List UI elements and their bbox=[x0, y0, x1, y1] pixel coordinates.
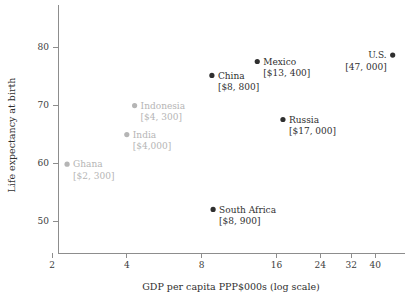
scatter-chart: 5060708024816243240 Ghana[$2, 300]India[… bbox=[0, 0, 410, 307]
point-marker[interactable] bbox=[280, 117, 285, 122]
plot-area: 5060708024816243240 Ghana[$2, 300]India[… bbox=[0, 0, 410, 307]
point-label: China bbox=[218, 71, 245, 81]
data-point-india[interactable]: India[$4,000] bbox=[124, 130, 171, 151]
point-marker[interactable] bbox=[64, 162, 69, 167]
x-tick-label: 2 bbox=[49, 260, 55, 270]
point-value-label: [$2, 300] bbox=[73, 171, 114, 181]
y-tick-label: 50 bbox=[38, 216, 50, 226]
y-tick-label: 70 bbox=[38, 100, 50, 110]
point-value-label: [47, 000] bbox=[345, 62, 386, 72]
data-point-south-africa[interactable]: South Africa[$8, 900] bbox=[211, 205, 277, 226]
x-tick-label: 4 bbox=[124, 260, 130, 270]
point-label: India bbox=[133, 130, 157, 140]
y-axis-title: Life expectancy at birth bbox=[6, 78, 17, 193]
point-marker[interactable] bbox=[124, 132, 129, 137]
point-value-label: [$8, 900] bbox=[219, 216, 260, 226]
point-value-label: [$13, 400] bbox=[263, 68, 310, 78]
point-marker[interactable] bbox=[390, 53, 395, 58]
x-tick-label: 24 bbox=[314, 260, 326, 270]
x-tick-label: 8 bbox=[199, 260, 205, 270]
data-point-china[interactable]: China[$8, 800] bbox=[209, 71, 259, 92]
point-label: U.S. bbox=[368, 50, 386, 60]
x-tick-label: 40 bbox=[370, 260, 382, 270]
x-tick-label: 32 bbox=[345, 260, 356, 270]
data-point-russia[interactable]: Russia[$17, 000] bbox=[280, 115, 336, 136]
point-value-label: [$17, 000] bbox=[289, 126, 336, 136]
data-points: Ghana[$2, 300]India[$4,000]Indonesia[$4,… bbox=[64, 50, 395, 226]
axis-ticks: 5060708024816243240 bbox=[38, 42, 382, 270]
point-label: Mexico bbox=[263, 57, 296, 67]
y-tick-label: 60 bbox=[38, 158, 50, 168]
point-marker[interactable] bbox=[255, 59, 260, 64]
x-axis-title: GDP per capita PPP$000s (log scale) bbox=[142, 281, 320, 292]
point-label: Russia bbox=[289, 115, 320, 125]
data-point-u-s[interactable]: U.S.[47, 000] bbox=[345, 50, 395, 71]
point-marker[interactable] bbox=[211, 207, 216, 212]
data-point-ghana[interactable]: Ghana[$2, 300] bbox=[64, 159, 114, 180]
point-marker[interactable] bbox=[209, 73, 214, 78]
point-marker[interactable] bbox=[132, 103, 137, 108]
point-value-label: [$4, 300] bbox=[141, 112, 182, 122]
point-value-label: [$4,000] bbox=[133, 141, 172, 151]
point-value-label: [$8, 800] bbox=[218, 82, 259, 92]
point-label: South Africa bbox=[219, 205, 277, 215]
data-point-mexico[interactable]: Mexico[$13, 400] bbox=[255, 57, 311, 78]
point-label: Indonesia bbox=[141, 101, 186, 111]
point-label: Ghana bbox=[73, 159, 103, 169]
x-tick-label: 16 bbox=[271, 260, 283, 270]
data-point-indonesia[interactable]: Indonesia[$4, 300] bbox=[132, 101, 186, 122]
y-tick-label: 80 bbox=[38, 42, 50, 52]
